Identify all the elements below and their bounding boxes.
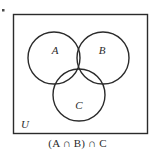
label-universe: U bbox=[21, 118, 30, 130]
figure-caption: (A ∩ B) ∩ C bbox=[0, 137, 155, 149]
label-set-c: C bbox=[75, 99, 83, 111]
venn-diagram-figure: A B C U (A ∩ B) ∩ C bbox=[0, 0, 155, 157]
label-set-a: A bbox=[51, 44, 59, 56]
venn-diagram-canvas: A B C U bbox=[0, 0, 155, 157]
label-set-b: B bbox=[99, 44, 106, 56]
bullet-dot-icon bbox=[2, 9, 5, 12]
